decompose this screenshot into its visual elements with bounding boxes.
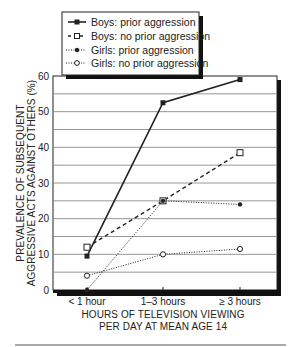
y-tick-label: 30 (38, 178, 50, 189)
x-tick-label: 1–3 hours (141, 296, 185, 307)
open-circle-marker (160, 252, 165, 257)
open-square-marker (237, 150, 243, 156)
filled-square-icon (75, 20, 80, 25)
filled-circle-marker (238, 202, 242, 206)
open-square-icon (75, 34, 80, 39)
legend-label: Girls: no prior aggression (91, 57, 208, 69)
y-tick-label: 60 (38, 71, 50, 82)
open-circle-marker (237, 246, 242, 251)
legend-label: Boys: no prior aggression (91, 30, 210, 42)
y-axis-label-line-2: AGGRESSIVE ACTS AGAINST OTHERS (%) (26, 80, 37, 287)
line-chart: 0102030405060 < 1 hour1–3 hours≥ 3 hours… (0, 0, 294, 347)
filled-square-marker (161, 100, 166, 105)
y-axis-label-line-1: PREVALENCE OF SUBSEQUENT (15, 104, 26, 261)
filled-square-marker (238, 77, 243, 82)
legend: Boys: prior aggression Boys: no prior ag… (62, 12, 210, 79)
x-tick-label: < 1 hour (69, 296, 107, 307)
x-axis-label-line-2: PER DAY AT MEAN AGE 14 (99, 321, 228, 332)
y-tick-label: 0 (43, 285, 49, 296)
y-tick-label: 10 (38, 249, 50, 260)
filled-circle-icon (75, 48, 79, 52)
filled-square-marker (85, 254, 90, 259)
y-tick-label: 20 (38, 213, 50, 224)
x-axis-label-line-1: HOURS OF TELEVISION VIEWING (81, 309, 244, 320)
y-tick-label: 50 (38, 106, 50, 117)
x-tick-label: ≥ 3 hours (219, 296, 261, 307)
legend-label: Girls: prior aggression (91, 44, 194, 56)
open-square-marker (84, 244, 90, 250)
filled-circle-marker (85, 288, 89, 292)
y-axis-label: PREVALENCE OF SUBSEQUENT AGGRESSIVE ACTS… (15, 80, 37, 287)
y-axis-ticks: 0102030405060 (38, 71, 50, 296)
legend-label: Boys: prior aggression (91, 16, 196, 28)
y-tick-label: 40 (38, 142, 50, 153)
open-circle-icon (75, 61, 80, 66)
filled-circle-marker (161, 199, 165, 203)
open-circle-marker (84, 273, 89, 278)
